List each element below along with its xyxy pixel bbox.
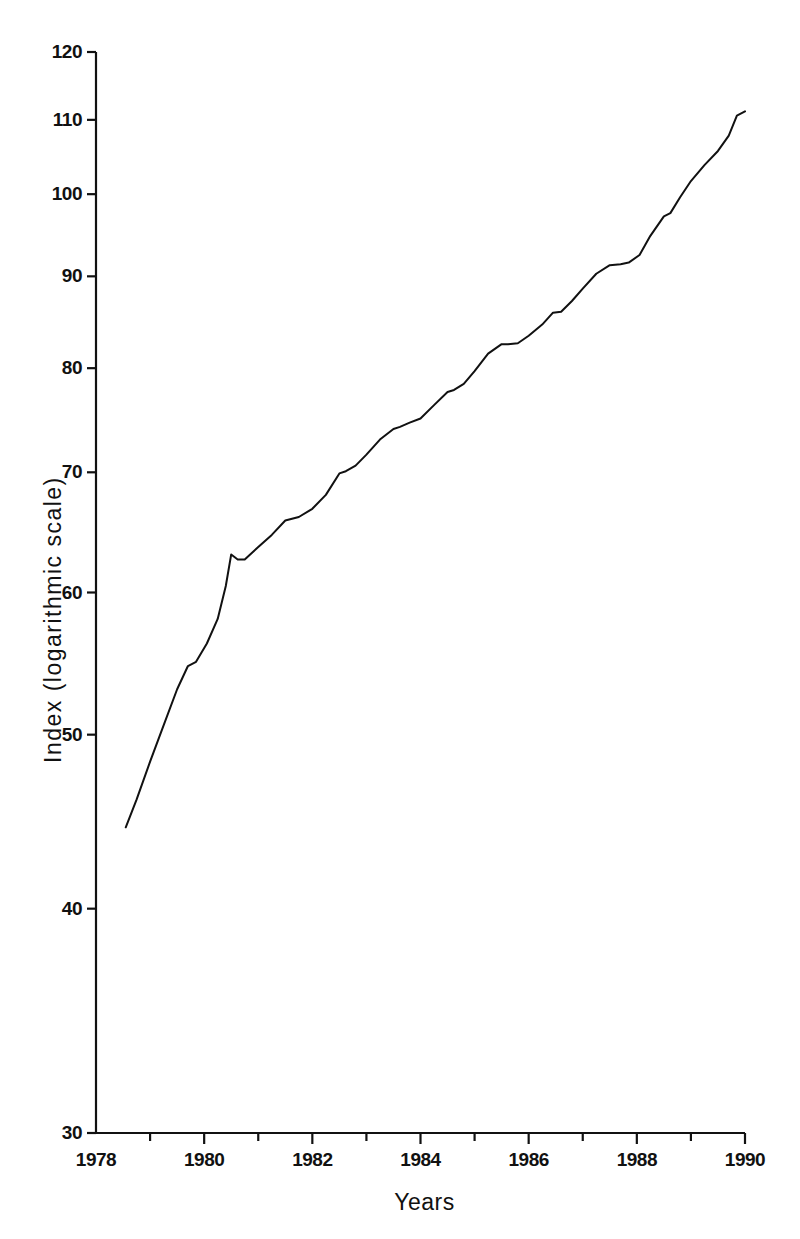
chart-plot-area xyxy=(0,0,800,1239)
axis-ticks xyxy=(87,120,691,1144)
y-tick-label: 120 xyxy=(52,41,82,63)
y-axis-title: Index (logarithmic scale) xyxy=(40,476,67,763)
axes-lines xyxy=(87,52,745,1144)
x-axis-title: Years xyxy=(394,1189,454,1216)
x-tick-label: 1988 xyxy=(617,1149,657,1171)
data-series-lines xyxy=(126,111,745,827)
x-tick-label: 1982 xyxy=(292,1149,332,1171)
y-tick-label: 100 xyxy=(52,183,82,205)
x-tick-label: 1984 xyxy=(400,1149,440,1171)
chart-figure: 30405060708090100110120 1978198019821984… xyxy=(0,0,800,1239)
x-tick-label: 1986 xyxy=(509,1149,549,1171)
x-tick-label: 1990 xyxy=(725,1149,765,1171)
x-tick-label: 1978 xyxy=(76,1149,116,1171)
y-tick-label: 80 xyxy=(62,357,82,379)
y-tick-label: 90 xyxy=(62,265,82,287)
x-tick-label: 1980 xyxy=(184,1149,224,1171)
y-tick-label: 30 xyxy=(62,1122,82,1144)
y-tick-label: 40 xyxy=(62,898,82,920)
y-tick-label: 110 xyxy=(53,109,82,131)
